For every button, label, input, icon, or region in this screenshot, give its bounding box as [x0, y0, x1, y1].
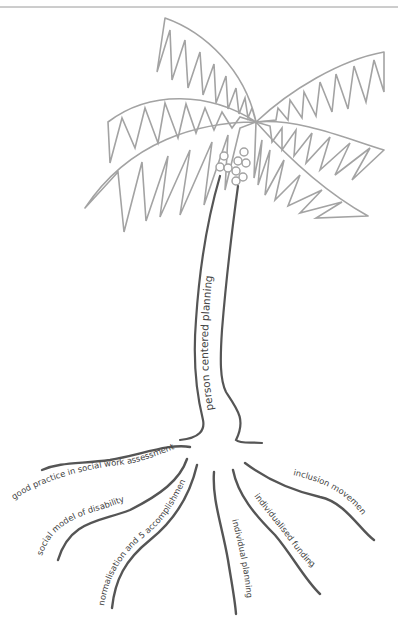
palm-tree-diagram: person centered planning good practice i…	[0, 0, 398, 627]
coconut-icon	[220, 152, 228, 160]
coconut-icon	[242, 159, 250, 167]
root-label-good-practice-text: good practice in social work assessment	[9, 441, 176, 502]
canopy-center	[254, 120, 257, 123]
trunk-label: person centered planning	[198, 275, 216, 412]
trunk-label-text: person centered planning	[198, 275, 216, 412]
coconut-icon	[224, 164, 232, 172]
palm-canopy	[85, 18, 384, 232]
palm-leaf-upper-left	[157, 18, 256, 122]
root-label-individualised-funding: individualised funding	[252, 491, 317, 569]
coconut-icon	[232, 177, 240, 185]
palm-leaf-right	[256, 122, 384, 180]
palm-leaf-lower-left	[85, 122, 256, 232]
root-label-normalisation: normalisation and 5 accomplishments	[0, 0, 187, 606]
coconut-icon	[240, 148, 248, 156]
root-individual-planning	[214, 472, 236, 614]
palm-trunk: person centered planning	[180, 176, 262, 443]
root-label-individualised-funding-text: individualised funding	[252, 491, 317, 569]
root-label-good-practice: good practice in social work assessment	[9, 441, 176, 502]
palm-roots: good practice in social work assessment …	[0, 0, 374, 614]
root-label-individual-planning: individual planning	[230, 518, 255, 598]
root-label-normalisation-text: normalisation and 5 accomplishments	[0, 0, 187, 606]
coconut-icon	[216, 163, 224, 171]
trunk-right-edge	[221, 186, 262, 443]
root-label-individual-planning-text: individual planning	[230, 518, 255, 598]
coconut-icon	[232, 167, 240, 175]
root-label-social-model: social model of disability	[34, 494, 125, 557]
palm-leaf-upper-right	[256, 52, 384, 122]
coconut-icon	[234, 157, 242, 165]
root-label-social-model-text: social model of disability	[34, 494, 125, 557]
